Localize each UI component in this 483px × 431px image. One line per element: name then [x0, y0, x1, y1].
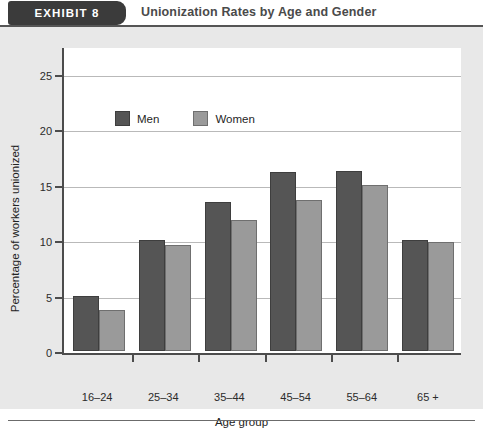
bar-women	[99, 310, 125, 351]
x-axis-tick-label: 25–34	[148, 391, 179, 403]
bar-women	[362, 185, 388, 351]
y-axis-tick-label: 15	[40, 181, 52, 193]
exhibit-title: Unionization Rates by Age and Gender	[141, 5, 377, 19]
bar-men	[336, 171, 362, 351]
bar-men	[270, 172, 296, 351]
x-axis-tick	[132, 354, 134, 362]
bar-group	[66, 48, 132, 351]
y-axis-title: Percentage of workers unionized	[6, 75, 24, 382]
y-axis-tick	[55, 297, 63, 299]
y-axis-tick-label: 25	[40, 70, 52, 82]
bar-group	[263, 48, 329, 351]
x-axis-tick	[397, 354, 399, 362]
x-axis-tick	[198, 354, 200, 362]
y-axis-tick	[55, 130, 63, 132]
figure-footer-divider	[8, 420, 475, 421]
y-axis-tick	[55, 352, 63, 354]
x-axis-tick-label: 55–64	[346, 391, 377, 403]
y-axis-tick	[55, 241, 63, 243]
bars-layer	[66, 48, 461, 351]
y-axis-tick-label: 20	[40, 125, 52, 137]
y-axis-tick	[55, 186, 63, 188]
figure-body: Percentage of workers unionized 05101520…	[0, 27, 483, 409]
x-axis-tick	[265, 354, 267, 362]
legend-label-women: Women	[215, 113, 254, 125]
y-axis-tick-label: 0	[46, 347, 52, 359]
bar-men	[73, 296, 99, 351]
legend-item-men: Men	[115, 111, 159, 126]
x-axis-tick	[331, 354, 333, 362]
x-axis-title: Age group	[0, 416, 483, 428]
bar-women	[165, 245, 191, 351]
bar-group	[395, 48, 461, 351]
bar-group	[198, 48, 264, 351]
legend-swatch-women-icon	[193, 111, 208, 126]
bar-men	[139, 240, 165, 351]
bar-women	[296, 200, 322, 351]
exhibit-header: EXHIBIT 8 Unionization Rates by Age and …	[0, 0, 483, 26]
bar-women	[231, 220, 257, 351]
bar-men	[402, 240, 428, 351]
exhibit-figure: EXHIBIT 8 Unionization Rates by Age and …	[0, 0, 483, 431]
legend-item-women: Women	[193, 111, 254, 126]
y-axis-tick-label: 10	[40, 236, 52, 248]
bar-women	[428, 242, 454, 351]
y-axis-tick-label: 5	[46, 292, 52, 304]
exhibit-number-label: EXHIBIT 8	[35, 7, 100, 19]
plot-area: 0510152025	[62, 48, 461, 355]
y-axis-tick	[55, 75, 63, 77]
exhibit-number-tab: EXHIBIT 8	[8, 1, 126, 25]
bar-group	[132, 48, 198, 351]
x-axis-tick-label: 35–44	[214, 391, 245, 403]
x-axis-tick-label: 16–24	[82, 391, 113, 403]
x-axis-tick-label: 45–54	[280, 391, 311, 403]
bar-men	[205, 202, 231, 351]
bar-group	[329, 48, 395, 351]
chart-legend: Men Women	[115, 111, 255, 126]
x-axis-tick-label: 65 +	[417, 391, 439, 403]
legend-swatch-men-icon	[115, 111, 130, 126]
legend-label-men: Men	[137, 113, 159, 125]
